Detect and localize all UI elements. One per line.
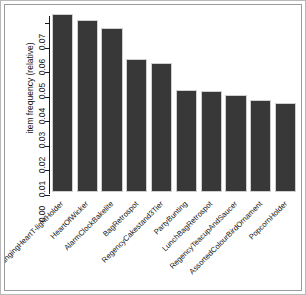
bar [126, 59, 147, 192]
bars-area [50, 13, 298, 195]
bar [225, 95, 246, 192]
bar [250, 100, 271, 192]
bar [275, 103, 296, 192]
x-axis-labels: WhiteHangingHeartT-lightHolderHeartOfWic… [5, 198, 302, 291]
item-frequency-plot-screenshot: item frequency (relative) 0.000.010.020.… [0, 0, 306, 295]
bar [201, 91, 222, 192]
y-axis-tick-label: 0.07 [37, 22, 47, 62]
bar [151, 63, 172, 192]
bar [176, 90, 197, 192]
bar [101, 28, 122, 192]
bar [52, 14, 73, 192]
bar [77, 20, 98, 192]
plot-frame: item frequency (relative) 0.000.010.020.… [4, 4, 302, 291]
y-axis-title: item frequency (relative) [25, 23, 35, 153]
